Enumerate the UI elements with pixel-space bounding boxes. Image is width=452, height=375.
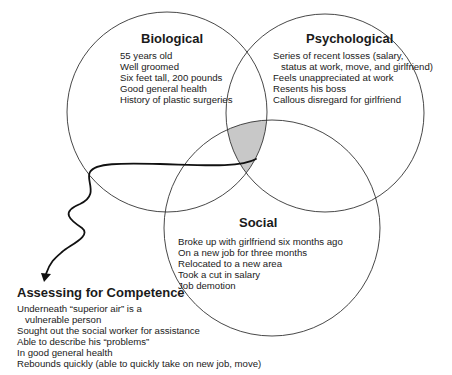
social-list: Broke up with girlfriend six months ago … [178,236,343,291]
list-item: Callous disregard for girlfriend [273,94,433,105]
social-title: Social [239,215,277,230]
list-item: Series of recent losses (salary, [273,50,433,61]
list-item: vulnerable person [17,314,261,325]
psychological-list: Series of recent losses (salary, status … [273,50,433,105]
assessment-title: Assessing for Competence [17,285,185,300]
list-item: History of plastic surgeries [120,94,233,105]
list-item: Job demotion [178,280,343,291]
list-item: Underneath “superior air” is a [17,303,261,314]
list-item: Sought out the social worker for assista… [17,325,261,336]
list-item: Able to describe his “problems” [17,336,261,347]
biological-title: Biological [141,31,203,46]
list-item: On a new job for three months [178,247,343,258]
arrowhead-icon [41,273,51,282]
list-item: Resents his boss [273,83,433,94]
list-item: Feels unappreciated at work [273,72,433,83]
list-item: Took a cut in salary [178,269,343,280]
list-item: In good general health [17,347,261,358]
biological-list: 55 years old Well groomed Six feet tall,… [120,50,233,105]
list-item: Good general health [120,83,233,94]
assessment-list: Underneath “superior air” is a vulnerabl… [17,303,261,369]
list-item: 55 years old [120,50,233,61]
list-item: Relocated to a new area [178,258,343,269]
psychological-title: Psychological [306,31,393,46]
list-item: Six feet tall, 200 pounds [120,72,233,83]
list-item: status at work, move, and girlfriend) [273,61,433,72]
list-item: Broke up with girlfriend six months ago [178,236,343,247]
list-item: Well groomed [120,61,233,72]
list-item: Rebounds quickly (able to quickly take o… [17,358,261,369]
